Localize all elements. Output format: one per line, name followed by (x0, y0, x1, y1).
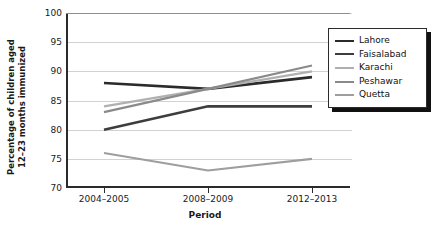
x-axis-title: Period (60, 210, 350, 220)
legend-swatch-faisalabad (335, 53, 354, 55)
legend-item-lahore[interactable]: Lahore (335, 34, 421, 48)
y-axis-tick-label: 70 (38, 183, 62, 193)
legend-label: Quetta (359, 88, 390, 102)
x-axis-tick-label: 2012–2013 (267, 194, 357, 204)
legend-swatch-quetta (335, 94, 354, 96)
legend-item-faisalabad[interactable]: Faisalabad (335, 48, 421, 62)
y-axis-tick-label: 100 (38, 8, 62, 18)
legend-swatch-lahore (335, 40, 354, 42)
y-axis-title-line2: 12–23 months immunized (17, 12, 28, 202)
x-axis-tick-label: 2004–2005 (59, 194, 149, 204)
legend-label: Lahore (359, 34, 390, 48)
data-series-group (66, 13, 350, 188)
y-axis-title-line1: Percentage of children aged (6, 39, 16, 175)
x-axis-tick (208, 188, 209, 193)
y-axis-tick-label: 95 (38, 37, 62, 47)
legend-swatch-peshawar (335, 81, 354, 83)
y-axis-title: Percentage of children aged 12–23 months… (6, 12, 28, 202)
legend-item-quetta[interactable]: Quetta (335, 88, 421, 102)
legend-item-karachi[interactable]: Karachi (335, 61, 421, 75)
x-axis-tick (104, 188, 105, 193)
y-axis-tick-labels: 707580859095100 (36, 13, 62, 188)
x-axis-tick-label: 2008–2009 (163, 194, 253, 204)
legend-label: Faisalabad (359, 48, 407, 62)
series-line-quetta (104, 153, 312, 171)
legend-label: Peshawar (359, 75, 402, 89)
chart-legend: LahoreFaisalabadKarachiPeshawarQuetta (328, 28, 427, 108)
y-axis-tick-label: 85 (38, 96, 62, 106)
series-line-lahore (104, 77, 312, 89)
legend-item-peshawar[interactable]: Peshawar (335, 75, 421, 89)
y-axis-tick-label: 75 (38, 154, 62, 164)
legend-swatch-karachi (335, 67, 354, 69)
x-axis-tick (312, 188, 313, 193)
legend-label: Karachi (359, 61, 393, 75)
y-axis-tick-label: 80 (38, 125, 62, 135)
line-chart-figure: Percentage of children aged 12–23 months… (0, 0, 433, 231)
y-axis-tick-label: 90 (38, 66, 62, 76)
series-line-faisalabad (104, 106, 312, 129)
